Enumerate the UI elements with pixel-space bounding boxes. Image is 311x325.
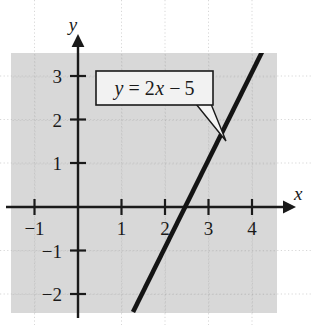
x-tick-label-4: 4	[247, 218, 257, 239]
x-tick-label-1: 1	[117, 218, 127, 239]
y-tick-label-3: 3	[53, 66, 63, 87]
x-axis-name: x	[293, 183, 303, 204]
y-tick-label-2: 2	[53, 110, 63, 131]
equation-intercept: 5	[184, 77, 194, 99]
equation-equals: =	[128, 77, 139, 99]
equation-callout: y=2x−5	[96, 71, 213, 105]
y-tick-label-neg2: −2	[42, 284, 62, 305]
coordinate-plane-svg: −1 1 2 3 4 3 2 1 −1 −2 x y y=2x−	[0, 0, 311, 325]
y-tick-label-1: 1	[53, 153, 63, 174]
y-tick-label-neg1: −1	[42, 241, 62, 262]
equation-lhs: y	[113, 77, 124, 100]
x-tick-label-neg1: −1	[24, 218, 44, 239]
equation-slope: 2	[145, 77, 155, 99]
equation-minus: −	[169, 77, 180, 99]
equation-variable: x	[154, 77, 164, 99]
graph-figure: −1 1 2 3 4 3 2 1 −1 −2 x y y=2x−	[0, 0, 311, 325]
y-axis-name: y	[67, 14, 78, 35]
x-tick-label-3: 3	[204, 218, 214, 239]
